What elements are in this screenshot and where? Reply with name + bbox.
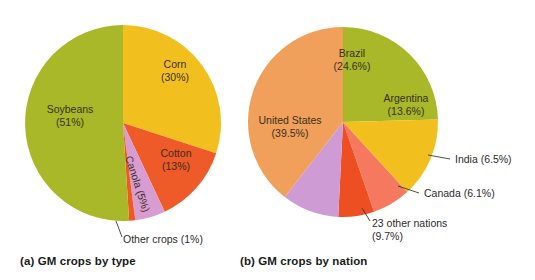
pie-label-india: India (6.5%) <box>455 153 512 165</box>
pie-label-canada: Canada (6.1%) <box>424 187 495 199</box>
pie-label-cotton: Cotton(13%) <box>161 147 192 172</box>
pie-slices <box>25 25 221 221</box>
pie-label-other-crops: Other crops (1%) <box>123 233 203 245</box>
pie-label-corn: Corn(30%) <box>161 58 189 83</box>
pie-label-argentina: Argentina(13.6%) <box>384 92 429 117</box>
pie-label-brazil: Brazil(24.6%) <box>334 47 371 72</box>
caption-chart-b: (b) GM crops by nation <box>240 255 367 267</box>
figure-pie-charts: Corn(30%)Cotton(13%)Canola (5%)Other cro… <box>0 0 535 280</box>
caption-chart-a: (a) GM crops by type <box>20 255 136 267</box>
